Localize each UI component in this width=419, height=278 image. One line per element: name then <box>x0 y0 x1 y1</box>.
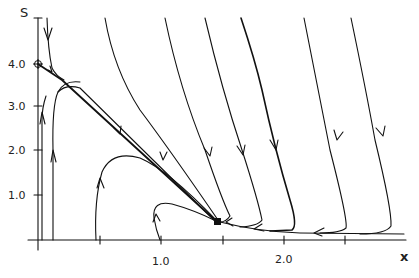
y-tick-label: 2.0 <box>8 145 26 156</box>
arrow-icon <box>97 178 104 188</box>
trajectory <box>165 18 230 222</box>
trajectory <box>42 96 46 240</box>
y-tick-label: 3.0 <box>8 101 26 112</box>
arrow-icon <box>334 130 343 140</box>
x-axis-label: x <box>400 250 408 263</box>
trajectory <box>58 87 214 220</box>
trajectory <box>241 18 295 231</box>
trajectory <box>220 222 404 234</box>
arrow-icon <box>160 152 167 160</box>
y-axis-label: S <box>20 6 28 19</box>
stable-node-icon <box>214 218 221 225</box>
trajectory <box>205 18 262 227</box>
trajectory <box>304 18 346 233</box>
phase-portrait <box>0 0 419 278</box>
trajectory <box>105 18 218 220</box>
x-tick-label: 1.0 <box>152 256 170 267</box>
y-tick-label: 4.0 <box>8 59 26 70</box>
saddle-point-icon <box>33 59 43 69</box>
arrow-icon <box>314 228 324 236</box>
arrow-icon <box>376 126 385 136</box>
y-tick-label: 1.0 <box>8 190 26 201</box>
trajectory <box>154 203 216 240</box>
trajectory <box>53 82 80 240</box>
x-tick-label: 2.0 <box>275 254 293 265</box>
